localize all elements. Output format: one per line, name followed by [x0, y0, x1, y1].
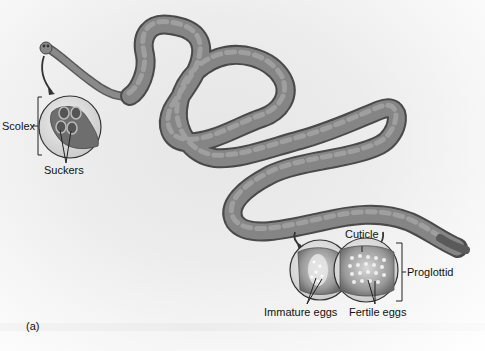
suckers-label: Suckers	[44, 164, 84, 176]
scolex-pointer-arrow	[42, 56, 52, 92]
scolex-arrowhead	[48, 88, 55, 95]
scolex-label: Scolex	[2, 120, 35, 132]
scolex-magnified	[39, 96, 101, 158]
fertile-eggs-label: Fertile eggs	[349, 306, 406, 318]
cuticle-label: Cuticle	[345, 228, 379, 240]
immature-eggs-label: Immature eggs	[264, 306, 337, 318]
panel-label: (a)	[26, 320, 39, 332]
tapeworm-figure: Scolex Suckers Cuticle Proglottid Immatu…	[0, 0, 485, 351]
scolex-head	[40, 42, 52, 54]
fertile-proglottid-magnified	[334, 238, 398, 302]
worm-body	[48, 22, 466, 250]
proglottid-label: Proglottid	[407, 266, 453, 278]
